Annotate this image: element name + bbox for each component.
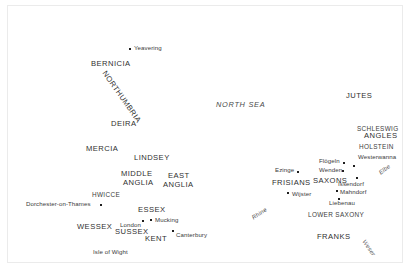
site-marker-wenden <box>342 170 344 172</box>
site-label-dorchester-on-thames: Dorchester-on-Thames <box>26 201 91 207</box>
region-label-sussex: SUSSEX <box>115 228 149 236</box>
site-label-yeavering: Yeavering <box>134 45 162 51</box>
site-label-london: London <box>120 222 141 228</box>
region-label-middle-anglia-line2: ANGLIA <box>123 179 154 187</box>
site-label-mahndorf: Mahndorf <box>340 189 367 195</box>
site-marker-canterbury <box>172 230 174 232</box>
region-label-lindsey: LINDSEY <box>134 154 170 162</box>
site-marker-dorchester-on-thames <box>100 204 102 206</box>
region-label-angles: ANGLES <box>364 132 398 140</box>
site-label-westerwanna: Westerwanna <box>358 154 396 160</box>
site-marker-ezinge <box>297 171 299 173</box>
map-frame: NORTH SEA Rhine Elbe Weser BERNICIA NORT… <box>7 5 403 263</box>
site-marker-flogeln <box>343 162 345 164</box>
region-label-bernicia: BERNICIA <box>91 60 130 68</box>
water-label-rhine: Rhine <box>251 207 268 221</box>
region-label-frisians: FRISIANS <box>272 179 311 187</box>
site-label-mucking: Mucking <box>155 217 178 223</box>
region-label-wessex: WESSEX <box>77 223 112 231</box>
site-label-liebenau: Liebenau <box>329 200 355 206</box>
water-label-north-sea: NORTH SEA <box>216 101 265 108</box>
site-marker-mucking <box>150 219 152 221</box>
region-label-east-anglia-line1: EAST <box>168 172 190 180</box>
site-label-wenden: Wenden <box>319 167 342 173</box>
region-label-essex: ESSEX <box>138 206 166 214</box>
region-label-deira: DEIRA <box>111 120 136 128</box>
site-label-canterbury: Canterbury <box>176 232 207 238</box>
water-label-elbe: Elbe <box>378 164 392 176</box>
map-canvas: NORTH SEA Rhine Elbe Weser BERNICIA NORT… <box>0 0 411 272</box>
site-marker-mahndorf <box>336 190 338 192</box>
site-label-ezinge: Ezinge <box>275 167 294 173</box>
region-label-middle-anglia-line1: MIDDLE <box>121 170 152 178</box>
site-marker-wijster <box>287 192 289 194</box>
region-label-hwicce: HWICCE <box>92 192 120 198</box>
island-label-isle-of-wight: Isle of Wight <box>93 249 128 255</box>
site-label-issendorf: Issendorf <box>338 181 364 187</box>
region-label-northumbria: NORTHUMBRIA <box>101 70 142 125</box>
region-label-mercia: MERCIA <box>86 145 118 153</box>
region-label-east-anglia-line2: ANGLIA <box>163 181 194 189</box>
site-label-wijster: Wijster <box>292 191 311 197</box>
region-label-franks: FRANKS <box>317 233 351 241</box>
site-label-flogeln: Flögeln <box>319 158 340 164</box>
site-marker-yeavering <box>129 48 131 50</box>
water-label-weser: Weser <box>361 239 376 257</box>
site-marker-london <box>142 220 144 222</box>
region-label-holstein: HOLSTEIN <box>359 144 394 150</box>
region-label-kent: KENT <box>145 235 167 243</box>
region-label-jutes: JUTES <box>346 92 372 100</box>
site-marker-westerwanna <box>353 165 355 167</box>
region-label-lower-saxony: LOWER SAXONY <box>308 212 364 218</box>
